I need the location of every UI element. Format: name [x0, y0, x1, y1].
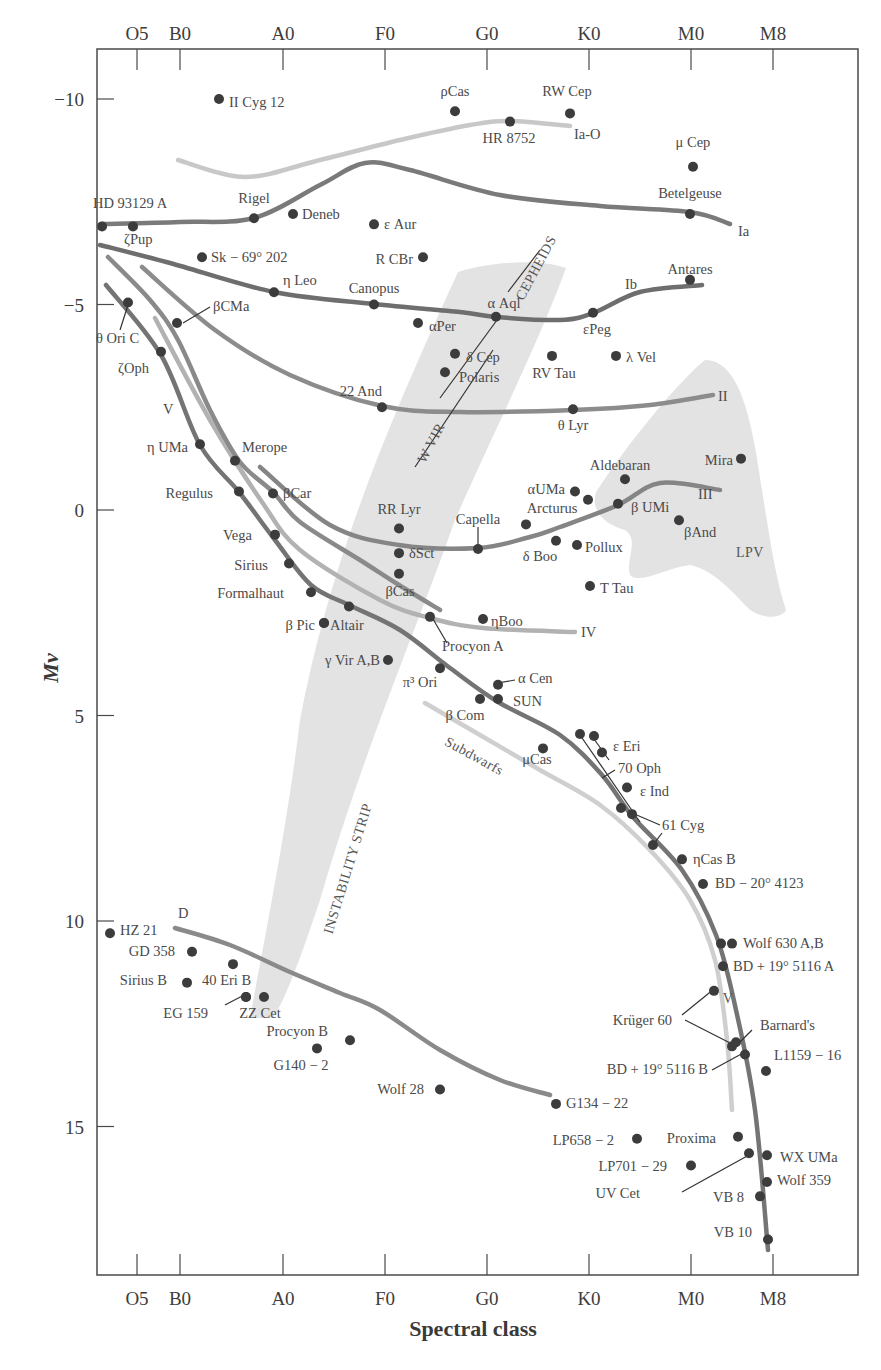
star-point — [588, 308, 598, 318]
star-label: θ Lyr — [558, 417, 589, 433]
leader-line — [682, 1155, 749, 1192]
star-point — [763, 1235, 773, 1245]
y-tick-label: 0 — [75, 500, 85, 521]
star-point — [727, 939, 737, 949]
star-point — [744, 1148, 754, 1158]
star-point — [306, 587, 316, 597]
star-point — [736, 454, 746, 464]
star-point — [583, 495, 593, 505]
star-point — [284, 558, 294, 568]
star-point — [344, 602, 354, 612]
star-point — [568, 404, 578, 414]
star-point — [733, 1132, 743, 1142]
star-label: Pollux — [585, 539, 624, 555]
star-point — [319, 618, 329, 628]
x-tick-label: M8 — [760, 23, 786, 44]
star-label: 22 And — [340, 383, 383, 399]
annotation-label: Subdwarfs — [442, 734, 506, 778]
star-point — [230, 456, 240, 466]
star-label: VB 8 — [713, 1189, 744, 1205]
sequence-label: Ia — [738, 223, 750, 239]
x-tick-label: G0 — [475, 23, 498, 44]
star-label: ρCas — [441, 83, 470, 99]
star-label: π³ Ori — [403, 674, 438, 690]
hr-diagram: INSTABILITY STRIPLPV Ia‑OIaIbIIIIIIVVD I… — [0, 0, 881, 1370]
star-label: 70 Oph — [618, 760, 662, 776]
star-label: Barnard's — [760, 1017, 815, 1033]
y-tick-label: 5 — [75, 706, 85, 727]
star-label: αUMa — [528, 481, 566, 497]
star-label: Wolf 359 — [777, 1172, 831, 1188]
star-label: Aldebaran — [590, 457, 651, 473]
star-label: α Cen — [518, 670, 553, 686]
x-axis-title: Spectral class — [409, 1316, 537, 1341]
star-point — [762, 1150, 772, 1160]
star-label: HZ 21 — [120, 922, 157, 938]
star-point — [435, 1085, 445, 1095]
annotation-label: V — [723, 991, 734, 1006]
star-label: ε Eri — [613, 738, 640, 754]
star-point — [597, 747, 607, 757]
shaded-regions: INSTABILITY STRIPLPV — [250, 262, 786, 1018]
star-point — [755, 1191, 765, 1201]
star-point — [475, 694, 485, 704]
star-label: Regulus — [165, 485, 213, 501]
x-tick-label: F0 — [375, 1288, 395, 1309]
star-label: ζOph — [118, 360, 150, 376]
star-point — [369, 219, 379, 229]
star-label: Betelgeuse — [658, 185, 722, 201]
sequence-ia — [102, 162, 730, 224]
y-tick-label: −10 — [54, 89, 84, 110]
star-label: Mira — [705, 452, 734, 468]
star-label: Krüger 60 — [613, 1012, 672, 1028]
star-label: BD + 19° 5116 A — [733, 958, 835, 974]
x-tick-label: G0 — [475, 1288, 498, 1309]
sequence-label: IV — [581, 624, 597, 640]
leader-line — [682, 989, 714, 1015]
star-label: γ Vir A,B — [324, 652, 380, 668]
star-label: μCas — [522, 751, 552, 767]
star-label: βCar — [283, 485, 311, 501]
sequence-label: III — [698, 486, 713, 502]
star-point — [698, 879, 708, 889]
star-point — [269, 287, 279, 297]
star-point — [493, 680, 503, 690]
star-point — [718, 961, 728, 971]
star-label: Deneb — [302, 206, 340, 222]
star-label: Altair — [330, 617, 364, 633]
star-label: Sk − 69° 202 — [211, 249, 287, 265]
star-point — [394, 548, 404, 558]
star-label: Wolf 630 A,B — [743, 935, 824, 951]
star-label: Canopus — [349, 280, 400, 296]
star-point — [632, 1134, 642, 1144]
star-point — [589, 731, 599, 741]
star-point — [585, 581, 595, 591]
star-label: Proxima — [667, 1130, 717, 1146]
star-point — [547, 351, 557, 361]
x-tick-label: M0 — [678, 1288, 704, 1309]
star-point — [195, 439, 205, 449]
star-label: Antares — [667, 261, 712, 277]
star-label: β Pic — [285, 617, 315, 633]
y-tick-label: 15 — [65, 1117, 84, 1138]
star-label: η Leo — [283, 272, 317, 288]
star-label: β Com — [445, 707, 485, 723]
star-point — [616, 803, 626, 813]
star-label: G140 − 2 — [274, 1057, 329, 1073]
star-point — [383, 655, 393, 665]
star-point — [627, 809, 637, 819]
star-point — [182, 978, 192, 988]
star-label: Procyon A — [442, 638, 504, 654]
star-label: LP658 − 2 — [553, 1132, 614, 1148]
star-label: BD + 19° 5116 B — [607, 1061, 708, 1077]
star-point — [521, 519, 531, 529]
star-label: RW Cep — [542, 83, 591, 99]
star-label: Formalhaut — [217, 585, 284, 601]
sequence-label: Ib — [625, 276, 637, 292]
star-point — [505, 117, 515, 127]
star-point — [450, 106, 460, 116]
star-label: BD − 20° 4123 — [715, 875, 804, 891]
star-point — [312, 1043, 322, 1053]
star-point — [268, 489, 278, 499]
star-label: SUN — [513, 693, 543, 709]
